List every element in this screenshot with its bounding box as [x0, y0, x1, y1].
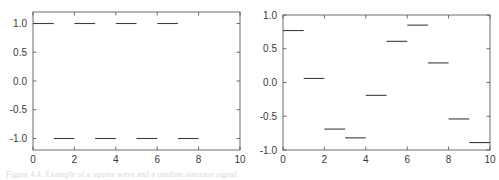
x-axis-tick-label: 0 — [30, 154, 36, 165]
y-axis-tick-label: 0.5 — [13, 47, 27, 58]
x-axis-tick-label: 0 — [280, 154, 286, 165]
figure-caption: Figure 4.4: Example of a square wave and… — [6, 170, 306, 179]
x-axis-tick-label: 6 — [404, 154, 410, 165]
y-axis-tick-label: 1.0 — [13, 18, 27, 29]
plot-frame — [33, 12, 240, 150]
y-axis-tick-label: 0.5 — [263, 43, 277, 54]
plot-frame — [283, 15, 490, 150]
y-axis-tick-label: 0.0 — [13, 76, 27, 87]
square-wave-plot: 0246810-1.0-0.50.00.51.0 — [0, 0, 249, 168]
x-axis-tick-label: 10 — [234, 154, 246, 165]
random-staircase-plot: 0246810-1.0-0.50.00.51.0 — [250, 0, 499, 168]
square-wave-panel: 0246810-1.0-0.50.00.51.0 — [0, 0, 249, 180]
x-axis-tick-label: 4 — [363, 154, 369, 165]
figure-container: 0246810-1.0-0.50.00.51.0 0246810-1.0-0.5… — [0, 0, 499, 180]
y-axis-tick-label: 0.0 — [263, 77, 277, 88]
x-axis-tick-label: 10 — [484, 154, 496, 165]
x-axis-tick-label: 4 — [113, 154, 119, 165]
y-axis-tick-label: 1.0 — [263, 10, 277, 21]
random-staircase-panel: 0246810-1.0-0.50.00.51.0 — [250, 0, 499, 180]
y-axis-tick-label: -1.0 — [260, 145, 278, 156]
x-axis-tick-label: 2 — [72, 154, 78, 165]
x-axis-tick-label: 6 — [154, 154, 160, 165]
y-axis-tick-label: -0.5 — [260, 111, 278, 122]
x-axis-tick-label: 8 — [446, 154, 452, 165]
x-axis-tick-label: 2 — [322, 154, 328, 165]
y-axis-tick-label: -0.5 — [10, 104, 28, 115]
x-axis-tick-label: 8 — [196, 154, 202, 165]
y-axis-tick-label: -1.0 — [10, 133, 28, 144]
